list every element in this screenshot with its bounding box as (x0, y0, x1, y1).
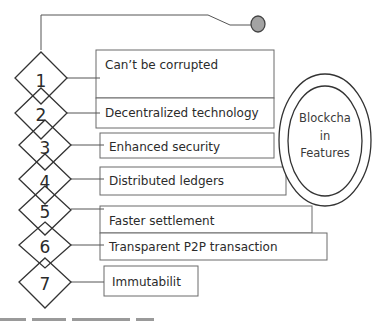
blockchain-features-diagram: Can’t be corrupted Decentralized technol… (0, 0, 385, 323)
center-title-line-1: Blockcha (299, 111, 351, 125)
feature-box-2: Decentralized technology (96, 98, 274, 128)
feature-box-6: Transparent P2P transaction (100, 233, 327, 260)
diamond-number-2: 2 (36, 105, 47, 125)
terminal-node (251, 16, 265, 32)
feature-label-3: Enhanced security (109, 140, 220, 154)
diamond-number-5: 5 (40, 202, 51, 222)
center-badge: Blockcha in Features (279, 74, 371, 206)
center-title-line-3: Features (300, 146, 349, 160)
center-title-line-2: in (320, 129, 330, 143)
feature-label-5: Faster settlement (109, 214, 215, 228)
feature-box-3: Enhanced security (100, 133, 274, 158)
feature-box-4: Distributed ledgers (100, 167, 286, 195)
diamond-number-6: 6 (40, 237, 51, 257)
feature-box-1: Can’t be corrupted (96, 50, 274, 98)
diamond-number-4: 4 (40, 172, 51, 192)
diamond-number-3: 3 (40, 138, 51, 158)
diamond-number-7: 7 (40, 274, 51, 294)
feature-label-7: Immutabilit (112, 275, 181, 289)
feature-label-1: Can’t be corrupted (105, 58, 218, 72)
feature-box-7: Immutabilit (104, 266, 198, 296)
feature-label-4: Distributed ledgers (109, 174, 224, 188)
feature-label-6: Transparent P2P transaction (108, 240, 278, 254)
diamond-number-1: 1 (36, 71, 47, 91)
clipped-caption (0, 318, 200, 323)
top-connector-line (41, 15, 251, 50)
feature-label-2: Decentralized technology (105, 106, 259, 120)
feature-box-5: Faster settlement (100, 206, 312, 233)
